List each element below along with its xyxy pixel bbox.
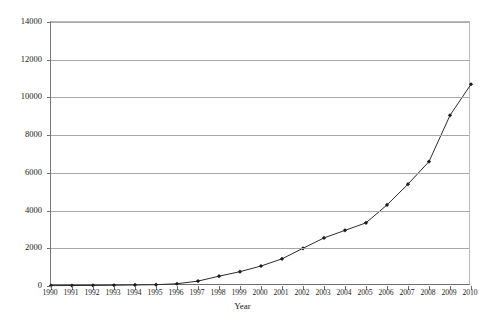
x-axis-title: Year — [0, 301, 485, 311]
x-tick-label: 2000 — [252, 288, 267, 297]
x-tick-label: 1994 — [126, 288, 141, 297]
y-tick-mark — [47, 60, 51, 61]
data-point-marker — [217, 274, 221, 278]
y-tick-mark — [47, 135, 51, 136]
x-tick-label: 2008 — [420, 288, 435, 297]
data-point-marker — [196, 279, 200, 283]
y-tick-mark — [47, 173, 51, 174]
gridline — [51, 60, 469, 61]
x-tick-label: 1995 — [147, 288, 162, 297]
gridline — [51, 211, 469, 212]
data-point-marker — [280, 257, 284, 261]
x-tick-label: 2006 — [378, 288, 393, 297]
data-point-marker — [259, 264, 263, 268]
x-tick-label: 1990 — [42, 288, 57, 297]
gridline — [51, 173, 469, 174]
data-series-line — [51, 22, 471, 286]
y-tick-label: 12000 — [21, 54, 42, 64]
gridline — [51, 248, 469, 249]
x-tick-label: 2009 — [441, 288, 456, 297]
gridline — [51, 22, 469, 23]
plot-area — [50, 21, 470, 285]
x-axis-labels: 1990199119921993199419951996199719981999… — [50, 288, 470, 302]
y-tick-label: 0 — [38, 280, 42, 290]
data-point-marker — [343, 228, 347, 232]
x-tick-label: 2004 — [336, 288, 351, 297]
y-tick-mark — [47, 211, 51, 212]
y-axis-labels: 02000400060008000100001200014000 — [0, 21, 46, 285]
chart-container: 02000400060008000100001200014000 1990199… — [0, 0, 485, 327]
y-tick-label: 10000 — [21, 91, 42, 101]
x-tick-label: 1991 — [63, 288, 78, 297]
y-tick-label: 6000 — [25, 167, 42, 177]
x-tick-label: 1992 — [84, 288, 99, 297]
x-tick-label: 2003 — [315, 288, 330, 297]
data-point-marker — [238, 270, 242, 274]
gridline — [51, 135, 469, 136]
x-tick-label: 1993 — [105, 288, 120, 297]
x-tick-label: 2010 — [462, 288, 477, 297]
y-tick-mark — [47, 22, 51, 23]
x-tick-label: 1996 — [168, 288, 183, 297]
x-tick-label: 1999 — [231, 288, 246, 297]
y-tick-label: 14000 — [21, 16, 42, 26]
x-tick-label: 2001 — [273, 288, 288, 297]
x-tick-label: 1998 — [210, 288, 225, 297]
x-tick-label: 2005 — [357, 288, 372, 297]
y-tick-label: 2000 — [25, 242, 42, 252]
y-tick-mark — [47, 97, 51, 98]
gridline — [51, 97, 469, 98]
y-tick-label: 8000 — [25, 129, 42, 139]
x-tick-label: 2007 — [399, 288, 414, 297]
data-point-marker — [322, 236, 326, 240]
y-tick-label: 4000 — [25, 205, 42, 215]
x-tick-label: 2002 — [294, 288, 309, 297]
x-tick-label: 1997 — [189, 288, 204, 297]
y-tick-mark — [47, 248, 51, 249]
